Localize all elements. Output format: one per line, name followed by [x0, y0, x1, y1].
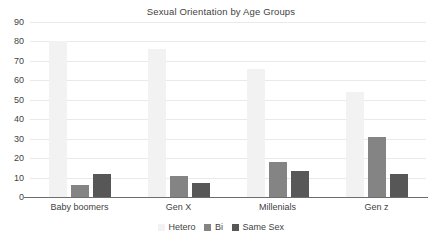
x-axis-tick-label: Gen X: [166, 202, 192, 212]
chart-legend: HeteroBiSame Sex: [0, 222, 442, 232]
y-axis-tick-label: 40: [14, 114, 24, 124]
y-axis-tick-label: 50: [14, 95, 24, 105]
y-axis-tick-label: 90: [14, 17, 24, 27]
legend-item-label: Bi: [215, 222, 223, 232]
y-axis-tick-label: 10: [14, 173, 24, 183]
legend-item-label: Same Sex: [243, 222, 285, 232]
plot-area: 0102030405060708090: [30, 22, 426, 197]
bar: [192, 183, 210, 197]
bar-group: [228, 22, 327, 197]
bar-chart: Sexual Orientation by Age Groups 0102030…: [0, 0, 442, 242]
bar: [49, 41, 67, 197]
bar: [368, 137, 386, 197]
bar-group: [129, 22, 228, 197]
legend-item[interactable]: Bi: [204, 222, 223, 232]
bar: [71, 185, 89, 197]
legend-item[interactable]: Same Sex: [232, 222, 284, 232]
chart-title: Sexual Orientation by Age Groups: [0, 6, 442, 17]
y-axis-tick-label: 20: [14, 153, 24, 163]
legend-item[interactable]: Hetero: [158, 222, 196, 232]
bar-group: [30, 22, 129, 197]
x-axis-tick-label: Baby boomers: [50, 202, 108, 212]
legend-swatch-icon: [232, 224, 239, 231]
bar: [291, 171, 309, 197]
y-axis-tick-label: 70: [14, 56, 24, 66]
bar: [346, 92, 364, 197]
x-axis-tick-label: Gen z: [364, 202, 388, 212]
y-axis-tick-label: 60: [14, 75, 24, 85]
y-axis-tick-label: 30: [14, 134, 24, 144]
x-axis-tick-label: Millenials: [259, 202, 296, 212]
x-axis-line: [24, 197, 428, 198]
bar: [148, 49, 166, 197]
bar: [390, 174, 408, 197]
y-axis-tick-label: 80: [14, 36, 24, 46]
bar: [93, 174, 111, 197]
bar: [269, 162, 287, 197]
legend-swatch-icon: [204, 224, 211, 231]
bar: [170, 176, 188, 197]
legend-item-label: Hetero: [168, 222, 195, 232]
legend-swatch-icon: [158, 224, 165, 231]
bar-group: [327, 22, 426, 197]
bar: [247, 69, 265, 197]
